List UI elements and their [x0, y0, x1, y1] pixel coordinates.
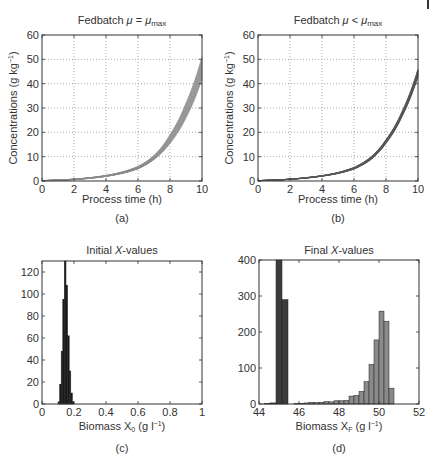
svg-text:0: 0 [250, 398, 256, 410]
grid-lines [42, 35, 202, 181]
chart-title: Initial X-values [86, 244, 158, 256]
svg-text:30: 30 [27, 102, 39, 114]
svg-text:100: 100 [21, 288, 39, 300]
svg-text:20: 20 [27, 376, 39, 388]
svg-text:2: 2 [287, 183, 293, 195]
svg-text:60: 60 [27, 332, 39, 344]
chart-title: Fedbatch μ < μmax [294, 14, 383, 28]
svg-text:40: 40 [27, 78, 39, 90]
svg-text:400: 400 [238, 254, 256, 266]
panel-d-histogram: Final X-values 4446485052 0100200300400 … [238, 244, 425, 454]
svg-text:60: 60 [243, 29, 255, 41]
svg-text:0.2: 0.2 [66, 406, 81, 418]
panel-caption: (c) [116, 442, 129, 454]
svg-text:0: 0 [33, 175, 39, 187]
svg-text:0: 0 [33, 398, 39, 410]
svg-text:80: 80 [27, 310, 39, 322]
svg-text:52: 52 [413, 406, 425, 418]
svg-text:100: 100 [238, 362, 256, 374]
panel-caption: (d) [332, 442, 345, 454]
svg-text:120: 120 [21, 266, 39, 278]
svg-text:40: 40 [243, 78, 255, 90]
svg-text:10: 10 [412, 183, 424, 195]
grid-lines [258, 35, 418, 181]
svg-text:8: 8 [167, 183, 173, 195]
trajectory-band [42, 57, 202, 181]
svg-text:8: 8 [383, 183, 389, 195]
svg-text:50: 50 [27, 53, 39, 65]
histogram-bars [58, 261, 74, 404]
panel-caption: (b) [331, 212, 344, 224]
y-axis-label: Concentrations (g kg−1) [7, 51, 19, 164]
svg-text:1: 1 [199, 406, 205, 418]
svg-text:46: 46 [293, 406, 305, 418]
panel-caption: (a) [115, 212, 128, 224]
svg-text:50: 50 [373, 406, 385, 418]
chart-title: Fedbatch μ = μmax [78, 14, 167, 28]
x-axis-label: Biomass XF (g l−1) [296, 420, 383, 433]
svg-text:0: 0 [39, 183, 45, 195]
x-axis-label: Process time (h) [298, 193, 378, 205]
svg-text:50: 50 [243, 53, 255, 65]
svg-text:300: 300 [238, 290, 256, 302]
svg-text:10: 10 [27, 151, 39, 163]
x-axis-label: Biomass X0 (g l−1) [79, 420, 165, 433]
svg-text:200: 200 [238, 326, 256, 338]
x-axis-label: Process time (h) [82, 193, 162, 205]
svg-text:20: 20 [243, 126, 255, 138]
y-axis-ticks: 020406080100120 [21, 266, 202, 410]
svg-text:0.8: 0.8 [162, 406, 177, 418]
svg-text:0: 0 [255, 183, 261, 195]
trajectory-band [258, 69, 418, 181]
svg-text:10: 10 [243, 151, 255, 163]
svg-text:2: 2 [71, 183, 77, 195]
chart-title: Final X-values [304, 244, 374, 256]
panel-a-line-chart: Fedbatch μ = μmax 0246810 0102030405060 … [7, 14, 208, 224]
histogram-bars [264, 260, 394, 404]
svg-text:48: 48 [333, 406, 345, 418]
svg-text:0.6: 0.6 [130, 406, 145, 418]
svg-text:0: 0 [249, 175, 255, 187]
svg-text:0.4: 0.4 [98, 406, 113, 418]
y-axis-label: Concentrations (g kg−1) [223, 51, 235, 164]
svg-text:40: 40 [27, 354, 39, 366]
svg-text:10: 10 [196, 183, 208, 195]
panel-c-histogram: Initial X-values 00.20.40.60.81 02040608… [21, 244, 205, 454]
y-axis-ticks: 0100200300400 [238, 254, 419, 410]
svg-text:0: 0 [39, 406, 45, 418]
panel-b-line-chart: Fedbatch μ < μmax 0246810 0102030405060 … [223, 14, 424, 224]
svg-text:60: 60 [27, 29, 39, 41]
svg-text:20: 20 [27, 126, 39, 138]
svg-text:30: 30 [243, 102, 255, 114]
figure: Fedbatch μ = μmax 0246810 0102030405060 … [0, 0, 435, 464]
